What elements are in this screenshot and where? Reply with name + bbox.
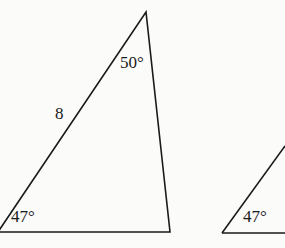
right-bottom-left-angle-label: 47° xyxy=(243,207,267,226)
bottom-left-angle-label: 47° xyxy=(11,207,35,226)
triangle-left-outline xyxy=(0,12,170,232)
side-length-label: 8 xyxy=(55,104,64,123)
diagram-canvas: 50° 8 47° 47° xyxy=(0,0,285,248)
triangle-left: 50° 8 47° xyxy=(0,12,170,232)
triangle-right: 47° xyxy=(222,146,285,233)
top-angle-label: 50° xyxy=(120,53,144,72)
